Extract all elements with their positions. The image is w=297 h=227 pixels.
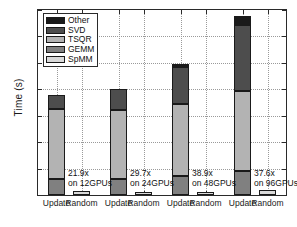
- bar-segment-gemm[interactable]: [234, 171, 251, 195]
- x-axis-tick-label-random: Random: [189, 198, 221, 208]
- bar-segment-svd[interactable]: [110, 89, 127, 111]
- legend-swatch-gemm: [46, 46, 65, 53]
- bar-segment-spmm[interactable]: [73, 191, 90, 195]
- bar-segment-svd[interactable]: [234, 25, 251, 92]
- speedup-annotation: 21.9xon 12GPUs: [68, 168, 112, 189]
- y-axis-tick: [38, 195, 42, 196]
- legend-item-gemm[interactable]: GEMM: [46, 45, 94, 55]
- x-axis-tick-label-random: Random: [65, 198, 97, 208]
- bar-segment-tsqr[interactable]: [234, 91, 251, 170]
- y-axis-label: Time (s): [13, 43, 24, 153]
- y-axis-tick-right: [282, 63, 286, 64]
- bar-segment-other[interactable]: [172, 64, 189, 67]
- y-axis-tick: [38, 142, 42, 143]
- y-axis-tick-right: [282, 36, 286, 37]
- figure-canvas: Time (s) 02468101214 UpdateRandom21.9xon…: [0, 0, 297, 227]
- speedup-annotation: 38.9xon 48GPUs: [192, 168, 236, 189]
- y-axis-tick-right: [282, 195, 286, 196]
- gpu-count-label: on 12GPUs: [68, 178, 112, 189]
- bar-update-96gpus[interactable]: [234, 10, 251, 195]
- speedup-annotation: 29.7xon 24GPUs: [130, 168, 174, 189]
- y-axis-tick: [38, 169, 42, 170]
- legend-swatch-other: [46, 17, 65, 24]
- x-axis-tick-label-random: Random: [251, 198, 283, 208]
- speedup-value: 21.9x: [68, 168, 112, 179]
- speedup-annotation: 37.6xon 96GPUs: [254, 168, 297, 189]
- legend-swatch-svd: [46, 27, 65, 34]
- bar-segment-tsqr[interactable]: [172, 104, 189, 175]
- bar-segment-svd[interactable]: [172, 67, 189, 105]
- y-axis-tick: [38, 10, 42, 11]
- bar-segment-svd[interactable]: [48, 95, 65, 109]
- y-axis-tick-right: [282, 10, 286, 11]
- bar-segment-spmm[interactable]: [135, 192, 152, 195]
- y-axis-tick: [38, 63, 42, 64]
- legend-label: Other: [68, 16, 89, 25]
- bar-segment-spmm[interactable]: [197, 192, 214, 195]
- speedup-value: 38.9x: [192, 168, 236, 179]
- gpu-count-label: on 96GPUs: [254, 178, 297, 189]
- y-axis-tick-right: [282, 142, 286, 143]
- speedup-value: 37.6x: [254, 168, 297, 179]
- legend-swatch-tsqr: [46, 36, 65, 43]
- gpu-count-label: on 24GPUs: [130, 178, 174, 189]
- bar-segment-other[interactable]: [234, 16, 251, 25]
- bar-segment-spmm[interactable]: [259, 190, 276, 195]
- legend-label: SpMM: [68, 55, 93, 64]
- y-axis-tick-right: [282, 116, 286, 117]
- bar-segment-tsqr[interactable]: [48, 109, 65, 179]
- speedup-value: 29.7x: [130, 168, 174, 179]
- bar-update-24gpus[interactable]: [110, 10, 127, 195]
- legend-item-spmm[interactable]: SpMM: [46, 54, 94, 64]
- bar-segment-gemm[interactable]: [48, 179, 65, 195]
- y-axis-tick: [38, 36, 42, 37]
- x-axis-tick-label-random: Random: [127, 198, 159, 208]
- legend: OtherSVDTSQRGEMMSpMM: [43, 13, 98, 67]
- bar-segment-gemm[interactable]: [172, 176, 189, 195]
- legend-swatch-spmm: [46, 56, 65, 63]
- y-axis-tick-right: [282, 89, 286, 90]
- legend-label: GEMM: [68, 45, 94, 54]
- y-axis-tick: [38, 89, 42, 90]
- y-axis-tick: [38, 116, 42, 117]
- bar-segment-tsqr[interactable]: [110, 110, 127, 179]
- bar-segment-gemm[interactable]: [110, 179, 127, 195]
- gpu-count-label: on 48GPUs: [192, 178, 236, 189]
- bar-update-48gpus[interactable]: [172, 10, 189, 195]
